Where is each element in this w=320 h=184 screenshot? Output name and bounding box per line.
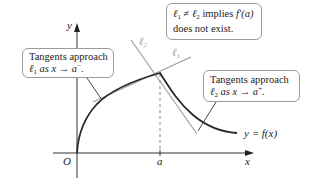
callout-right: Tangents approach ℓ2 as x → a+. xyxy=(203,70,300,102)
leader-left xyxy=(87,78,102,100)
y-axis-label: y xyxy=(66,19,72,31)
origin-label: O xyxy=(63,155,71,167)
x-axis-label: x xyxy=(244,155,250,167)
curve-label: y = f(x) xyxy=(243,127,277,140)
tangent-line-l2 xyxy=(131,40,197,134)
callout-top-line1: ℓ1 ≠ ℓ2 implies f′(a) xyxy=(173,8,256,20)
callout-right-line1: Tangents approach xyxy=(210,74,294,86)
callout-top-line2: does not exist. xyxy=(173,23,256,35)
y-axis-arrow-icon xyxy=(74,23,80,32)
a-label: a xyxy=(157,155,163,167)
callout-left-line1: Tangents approach xyxy=(29,51,108,63)
l1-label: ℓ1 xyxy=(172,46,180,60)
callout-left-line2: ℓ1 as x → a−. xyxy=(29,63,108,75)
callout-top: ℓ1 ≠ ℓ2 implies f′(a) does not exist. xyxy=(166,3,262,40)
callout-right-line2: ℓ2 as x → a+. xyxy=(210,86,294,98)
l2-label: ℓ2 xyxy=(139,35,148,49)
callout-left: Tangents approach ℓ1 as x → a−. xyxy=(22,48,114,78)
